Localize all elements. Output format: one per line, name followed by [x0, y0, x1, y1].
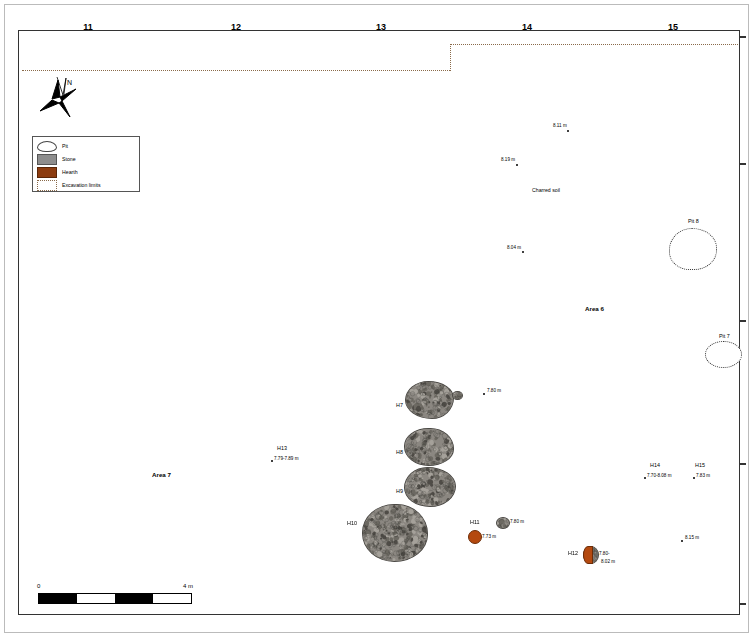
elevation-point [567, 130, 569, 132]
annotation-charred-soil: Charred soil [532, 187, 560, 193]
feature-label-h15: H15 [695, 462, 705, 468]
feature-label-h10: H10 [347, 520, 357, 526]
elevation-label: 7.80- [599, 551, 609, 556]
elevation-label: 7.83 m [696, 473, 710, 478]
stone-cluster-h8 [404, 428, 454, 466]
pit-7 [705, 341, 742, 368]
hearth-h12 [583, 546, 593, 564]
legend-item-stone: Stone [37, 153, 135, 165]
stone-cluster-h7 [405, 381, 454, 419]
legend-label: Hearth [62, 168, 78, 177]
pit-icon [37, 141, 57, 152]
pit-8 [669, 228, 717, 270]
elevation-label: 7.80 m [510, 519, 524, 524]
excavation-limits-icon [37, 180, 57, 191]
frame-tick [740, 463, 746, 465]
feature-label-h9: H9 [396, 488, 403, 494]
legend-item-hearth: Hearth [37, 166, 135, 178]
stone-cluster-h11 [496, 517, 510, 529]
stone-small [452, 391, 463, 400]
feature-label-pit-8: Pit 8 [688, 218, 699, 224]
elevation-label: 8.11 m [553, 123, 567, 128]
feature-label-pit-7: Pit 7 [719, 333, 730, 339]
elevation-label: 8.19 m [501, 157, 515, 162]
elevation-point [522, 251, 524, 253]
excavation-limit-line [450, 44, 738, 45]
elevation-point [644, 477, 646, 479]
elevation-label: 7.73 m [482, 534, 496, 539]
north-arrow-icon: N [30, 75, 86, 123]
elevation-point [516, 164, 518, 166]
scale-max-label: 4 m [183, 583, 193, 589]
frame-tick [740, 320, 746, 322]
feature-label-h11: H11 [470, 519, 480, 525]
elevation-point [271, 460, 273, 462]
legend-item-excavation-limits: Excavation limits [37, 179, 135, 191]
legend-label: Excavation limits [62, 181, 101, 190]
north-label: N [67, 79, 72, 86]
legend-label: Stone [62, 155, 76, 164]
elevation-label: 7.70-8.08 m [647, 473, 672, 478]
excavation-limit-line [450, 44, 451, 71]
hearth-h11 [468, 530, 482, 544]
area-label-area-6: Area 6 [585, 305, 604, 312]
stone-icon [37, 154, 57, 165]
feature-label-h14: H14 [650, 462, 660, 468]
feature-label-h7: H7 [396, 402, 403, 408]
feature-label-h13: H13 [277, 445, 287, 451]
legend: Pit Stone Hearth Excavation limits [32, 136, 140, 192]
scale-min-label: 0 [37, 583, 40, 589]
elevation-label: 7.79-7.89 m [274, 456, 299, 461]
legend-label: Pit [62, 142, 68, 151]
stone-cluster-h9 [404, 467, 456, 507]
frame-tick [740, 603, 746, 605]
legend-item-pit: Pit [37, 140, 135, 152]
feature-label-h12: H12 [568, 550, 578, 556]
excavation-limit-line [22, 70, 450, 71]
feature-label-h8: H8 [396, 449, 403, 455]
frame-tick [740, 163, 746, 165]
stone-cluster-h10 [362, 504, 428, 562]
excavation-plan-page: 11 12 13 14 15 N [0, 0, 753, 637]
area-label-area-7: Area 7 [152, 471, 171, 478]
elevation-label: 7.80 m [487, 388, 501, 393]
elevation-point [693, 477, 695, 479]
elevation-point [483, 393, 485, 395]
scale-bar [38, 593, 192, 604]
hearth-icon [37, 167, 57, 178]
elevation-point [681, 540, 683, 542]
elevation-label: 8.04 m [507, 245, 521, 250]
frame-tick [740, 36, 746, 38]
elevation-label: 8.15 m [685, 535, 699, 540]
elevation-label: 8.02 m [601, 559, 615, 564]
